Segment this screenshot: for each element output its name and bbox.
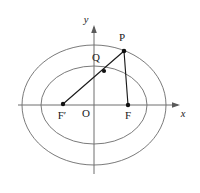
label-y-axis: y [83,14,89,25]
y-axis-arrow-icon [91,25,97,33]
label-x-axis: x [180,108,186,119]
point-marker-f [126,103,130,107]
x-axis-arrow-icon [172,102,180,108]
label-point-p: P [119,31,125,43]
label-point-f: F [125,109,131,121]
point-marker-p [122,49,127,54]
ellipse-figure: P Q F′ F O x y [0,0,200,193]
label-point-q: Q [92,51,100,63]
point-marker-q [102,69,106,73]
segment-p-to-f [124,51,128,105]
label-point-f-prime: F′ [58,109,67,121]
point-marker-f-prime [61,102,65,106]
figure-canvas: P Q F′ F O x y [0,0,200,193]
label-origin: O [82,107,90,119]
